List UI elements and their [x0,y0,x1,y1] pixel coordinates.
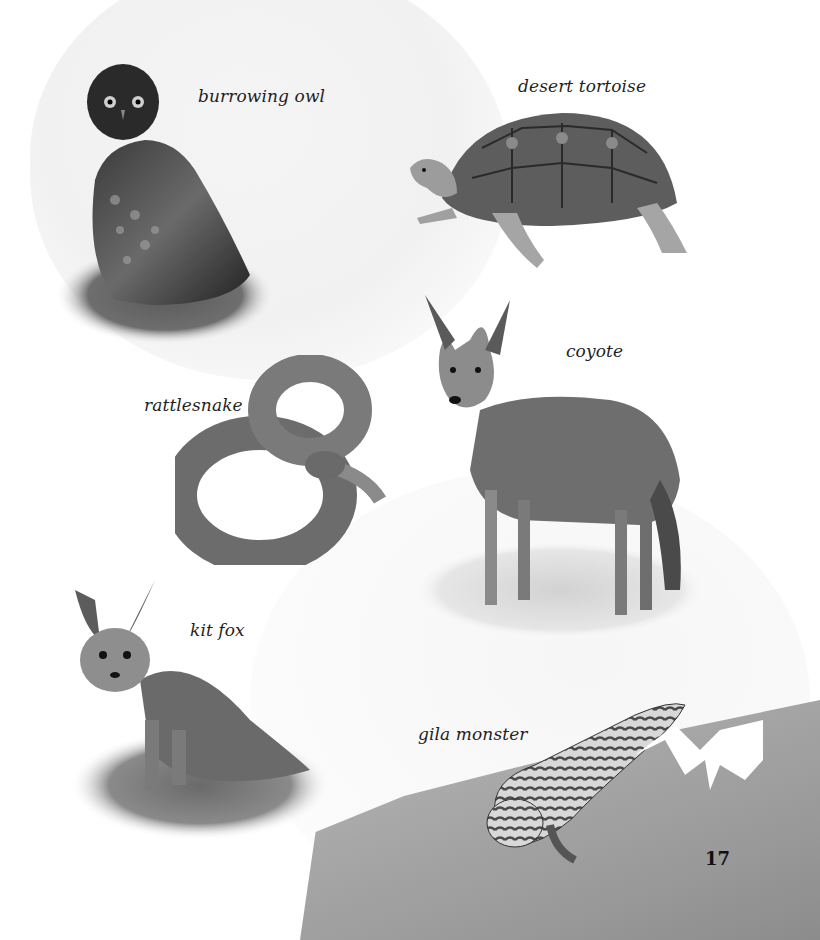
white-shard-decoration [630,720,763,810]
page-number: 17 [705,848,730,869]
kit-fox-image [60,570,330,840]
desert-tortoise-label: desert tortoise [518,76,646,96]
rattlesnake-image [175,355,390,565]
desert-tortoise-image [402,108,702,278]
burrowing-owl-label: burrowing owl [198,86,325,106]
coyote-image [410,290,710,640]
